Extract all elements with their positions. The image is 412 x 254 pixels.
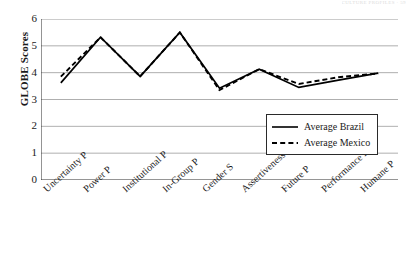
legend-label: Average Mexico [304,138,370,148]
legend-swatch-solid-icon [272,122,298,132]
legend-swatch-dashed-icon [272,138,298,148]
y-tick-label: 4 [25,67,37,78]
y-tick-label: 3 [25,94,37,105]
legend-item: Average Mexico [272,135,372,151]
y-tick-label: 5 [25,40,37,51]
y-tick-label: 2 [25,120,37,131]
legend-item: Average Brazil [272,119,372,135]
series-line [61,32,378,88]
page-header-remnant: CULTURE PROFILES · 59 [342,0,406,7]
plot-area [41,19,398,180]
legend-label: Average Brazil [304,122,364,132]
x-axis-tick-labels: Uncertainty PPower PInstitutional PIn-Gr… [41,180,398,254]
y-tick-label: 0 [25,174,37,185]
y-tick-label: 1 [25,147,37,158]
chart-legend: Average Brazil Average Mexico [266,114,378,155]
chart-canvas [41,19,398,180]
series-lines [61,32,378,90]
y-axis-tick-labels: 6543210 [22,19,37,180]
y-tick-label: 6 [25,13,37,24]
chart-figure: CULTURE PROFILES · 59 GLOBE Scores 65432… [0,0,412,254]
